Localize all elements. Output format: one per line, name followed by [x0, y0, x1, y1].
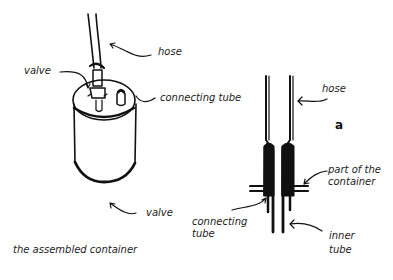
caption-assembled-container: the assembled container: [13, 244, 137, 256]
connecting-tube-right-arrow: [232, 198, 266, 210]
valve-top-arrow: [60, 72, 90, 88]
label-part-of-container-2: container: [328, 176, 375, 188]
label-valve-top: valve: [24, 65, 51, 77]
label-part-of-container-1: part of the: [328, 164, 381, 176]
inner-tube-arrow: [290, 220, 322, 231]
right-hose-arrow: [298, 97, 327, 105]
valve-bottom-arrow: [110, 203, 136, 214]
left-hose: [88, 14, 104, 68]
label-hose-right: hose: [322, 83, 346, 95]
label-hose-left: hose: [158, 46, 182, 58]
left-connecting-tube: [117, 90, 125, 106]
hose-arrow: [110, 43, 151, 56]
connecting-tube-arrow: [136, 96, 155, 102]
left-valve: [88, 70, 107, 112]
label-connecting-tube-left: connecting tube: [160, 92, 241, 104]
label-connecting-tube-right-1: connecting: [192, 216, 247, 228]
panel-letter: a: [335, 118, 343, 132]
label-connecting-tube-right-2: tube: [192, 228, 215, 240]
label-valve-bottom: valve: [146, 207, 173, 219]
part-of-container-arrow: [304, 171, 327, 184]
label-inner-tube-2: tube: [329, 244, 352, 256]
label-inner-tube-1: inner: [329, 230, 355, 242]
